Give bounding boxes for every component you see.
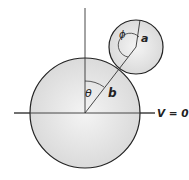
theta-label: θ bbox=[85, 87, 92, 100]
b-label: b bbox=[108, 86, 117, 100]
v-zero-label: V = 0 bbox=[157, 107, 189, 119]
a-label: a bbox=[141, 32, 148, 45]
two-sphere-diagram: θ b ϕ a V = 0 bbox=[0, 0, 189, 180]
phi-label: ϕ bbox=[119, 29, 126, 40]
